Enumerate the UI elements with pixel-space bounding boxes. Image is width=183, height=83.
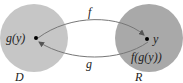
- label-y: y: [152, 32, 159, 46]
- label-g: g: [86, 57, 92, 71]
- label-f: f: [88, 5, 93, 19]
- label-fgy: f(g(y)): [131, 50, 162, 64]
- label-D: D: [14, 70, 24, 83]
- label-R: R: [134, 70, 143, 83]
- point-gy: [34, 36, 38, 40]
- function-inverse-diagram: g(y) y f(g(y)) f g D R: [0, 0, 183, 83]
- label-gy: g(y): [6, 31, 25, 45]
- point-y: [145, 37, 149, 41]
